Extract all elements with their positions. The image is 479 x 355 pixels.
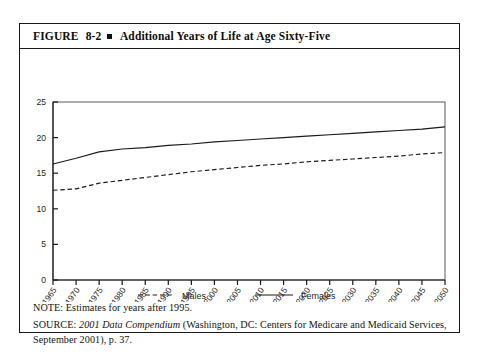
series-line-males <box>53 153 445 191</box>
y-axis-ticks: 0510152025 <box>36 97 58 285</box>
figure-footnotes: NOTE: Estimates for years after 1995. SO… <box>20 300 459 347</box>
chart-axes <box>53 102 445 280</box>
svg-text:15: 15 <box>36 168 46 178</box>
series-line-females <box>53 127 445 164</box>
x-axis-ticks: 1965197019751980198519901995200020052010… <box>40 280 451 302</box>
svg-text:0: 0 <box>41 275 46 285</box>
legend-label-females: Females <box>301 291 336 301</box>
line-chart-svg: 0510152025 19651970197519801985199019952… <box>20 49 461 302</box>
svg-text:20: 20 <box>36 133 46 143</box>
square-bullet-icon <box>107 34 112 39</box>
page-title: FIGURE 8-2 Additional Years of Life at A… <box>20 30 330 42</box>
figure-label: FIGURE <box>33 30 79 42</box>
note-prefix: NOTE: <box>33 302 63 313</box>
source-line: SOURCE: 2001 Data Compendium (Washington… <box>33 317 447 347</box>
chart-series-lines <box>53 127 445 190</box>
source-prefix: SOURCE: <box>33 319 76 330</box>
legend-label-males: Males <box>182 291 207 301</box>
source-title: 2001 Data Compendium <box>79 319 180 330</box>
figure-title-bar: FIGURE 8-2 Additional Years of Life at A… <box>20 24 459 49</box>
note-line: NOTE: Estimates for years after 1995. <box>33 300 447 315</box>
note-text: Estimates for years after 1995. <box>63 302 192 313</box>
chart-plot-area: 0510152025 19651970197519801985199019952… <box>20 49 461 302</box>
svg-text:5: 5 <box>41 239 46 249</box>
figure-title-text: Additional Years of Life at Age Sixty-Fi… <box>120 30 330 42</box>
svg-text:25: 25 <box>36 97 46 107</box>
figure-number: 8-2 <box>86 30 102 42</box>
figure-container: FIGURE 8-2 Additional Years of Life at A… <box>19 23 460 333</box>
svg-text:10: 10 <box>36 204 46 214</box>
